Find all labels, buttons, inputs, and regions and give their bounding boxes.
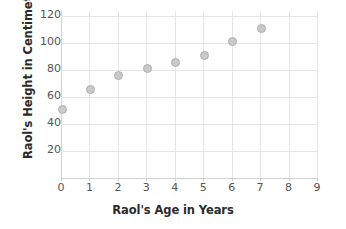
x-axis-title: Raol's Age in Years [0,203,346,217]
gridline-vertical [289,11,290,178]
data-point [58,105,67,114]
gridline-horizontal [61,97,317,98]
y-axis-tick-label: 100 [21,35,61,48]
gridline-horizontal [61,16,317,17]
y-axis-line [61,11,62,179]
y-axis-tick-label: 20 [21,143,61,156]
data-point [257,24,266,33]
y-axis-tick-label: 60 [21,89,61,102]
gridline-horizontal [61,70,317,71]
y-axis-tick-label: 80 [21,62,61,75]
gridline-vertical [203,11,204,178]
gridline-vertical [232,11,233,178]
x-axis-tick-label: 5 [193,181,213,194]
data-point [200,51,209,60]
scatter-chart: Raol's Height in Centimeters Raol's Age … [0,0,346,229]
gridline-horizontal [61,124,317,125]
x-axis-tick-label: 1 [79,181,99,194]
data-point [171,58,180,67]
x-axis-tick-label: 2 [108,181,128,194]
x-axis-tick-label: 0 [51,181,71,194]
gridline-vertical [118,11,119,178]
y-axis-tick-label: 120 [21,8,61,21]
x-axis-tick-label: 3 [136,181,156,194]
y-axis-title: Raol's Height in Centimeters [21,0,35,159]
gridline-vertical [146,11,147,178]
x-axis-tick-label: 4 [165,181,185,194]
plot-area [61,11,317,178]
x-axis-tick-label: 6 [222,181,242,194]
x-axis-tick-label: 7 [250,181,270,194]
gridline-vertical [89,11,90,178]
gridline-horizontal [61,151,317,152]
data-point [114,71,123,80]
gridline-vertical [260,11,261,178]
x-axis-tick-label: 8 [279,181,299,194]
x-axis-line [61,178,318,179]
data-point [228,37,237,46]
x-axis-tick-label: 9 [307,181,327,194]
gridline-vertical [175,11,176,178]
gridline-vertical [317,11,318,178]
gridline-horizontal [61,43,317,44]
y-axis-tick-label: 40 [21,116,61,129]
data-point [143,64,152,73]
data-point [86,85,95,94]
